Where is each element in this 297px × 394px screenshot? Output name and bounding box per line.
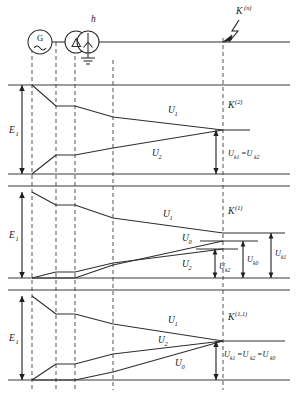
transformer-symbol: h [65, 14, 99, 64]
voltage-profile-diagram: G h K [0, 0, 297, 394]
measure-sub3-uk0-panel4: k0 [270, 355, 275, 361]
curve-sub-u2-panel4: 2 [165, 340, 169, 347]
curve-u1-panel2 [32, 85, 223, 130]
emf-arrowhead-down-panel4 [19, 374, 25, 380]
panel-two-phase-fault: E 1 U 1 U 2 K (2) U k1 =U k2 [8, 85, 290, 174]
fault-arrowhead [223, 35, 232, 42]
curve-sub-u2-panel3: 2 [189, 264, 193, 271]
curve-sub-u0-panel4: 0 [182, 363, 186, 370]
curve-u2-panel3 [32, 249, 223, 278]
fault-sup-panel3: (1) [235, 204, 242, 212]
measure-sub-uk0-panel3: k0 [253, 260, 258, 266]
curve-sub-u0-panel3: 0 [189, 238, 193, 245]
emf-measure-panel2: E 1 [8, 85, 25, 174]
fault-label-base: K [235, 6, 243, 16]
fault-label-panel3: K [227, 206, 235, 216]
measure-arrowhead-down-uk2 [213, 273, 218, 279]
emf-sub-panel2: 1 [16, 130, 19, 137]
curve-u0-panel4 [32, 341, 223, 380]
panel-double-ground-fault: E 1 U 1 U 2 U 0 K (1,1) U k1 =U k2 =U k0 [8, 290, 290, 380]
measure-uk2-panel3: U k2 [213, 249, 231, 278]
fault-marker-top: K (n) [223, 4, 251, 42]
measure-eq2-panel4: =U [257, 350, 270, 359]
panel-single-phase-fault: E 1 U 1 U 0 U 2 K (1) U k2 [8, 186, 290, 278]
emf-label-panel2: E [8, 125, 15, 135]
fault-sup-panel2: (2) [235, 98, 242, 106]
curve-sub-u2-panel2: 2 [159, 153, 163, 160]
measure-sub-uk2-panel3: k2 [225, 267, 230, 273]
measure-arrowhead-up-uk1 [269, 233, 274, 239]
emf-arrowhead-up-panel3 [19, 192, 25, 198]
fault-label-panel2: K [227, 100, 235, 110]
curve-u2-panel4 [32, 341, 223, 380]
emf-measure-panel3: E 1 [8, 192, 25, 278]
measure-sub-uk1-panel4: k1 [230, 355, 235, 361]
measure-uk-panel2: U k1 =U k2 [213, 130, 259, 174]
earth-ground-icon [81, 58, 95, 64]
emf-arrowhead-up [19, 85, 25, 91]
curve-u1-panel3 [32, 192, 223, 233]
measure-arrowhead-down-uk0 [241, 273, 246, 279]
curve-sub-u1-panel4: 1 [175, 320, 178, 327]
measure-uk1-panel3: U k1 [269, 233, 287, 278]
emf-sub-panel4: 1 [16, 338, 19, 345]
curve-sub-u1-panel2: 1 [175, 110, 178, 117]
emf-measure-panel4: E 1 [8, 296, 25, 380]
fault-label-panel4: K [227, 312, 235, 322]
measure-arrowhead-up-uk0 [241, 241, 246, 247]
curve-sub-u1-panel3: 1 [170, 214, 173, 221]
single-line-circuit: G h K [28, 4, 290, 64]
measure-eq-panel2: =U [241, 149, 254, 158]
generator-symbol: G [28, 30, 52, 54]
measure-arrowhead-down-uk1 [269, 273, 274, 279]
emf-arrowhead-down [19, 168, 25, 174]
vertical-reference-lines [32, 38, 223, 390]
emf-label-panel4: E [8, 333, 15, 343]
emf-arrowhead-up-panel4 [19, 296, 25, 302]
measure-arrowhead-down-panel4 [213, 374, 218, 380]
figure-root: G h K [0, 0, 297, 394]
generator-label: G [37, 33, 43, 43]
emf-label-panel3: E [8, 230, 15, 240]
transformer-tap-label: h [91, 14, 96, 24]
fault-sup-panel4: (1,1) [235, 310, 247, 318]
measure-eq-panel4: =U [237, 350, 250, 359]
measure-sub2-uk2-panel2: k2 [254, 154, 259, 160]
curve-u2-panel2 [32, 130, 223, 174]
measure-arrowhead-down-panel2 [213, 168, 218, 174]
measure-uk0-panel3: U k0 [241, 241, 259, 278]
emf-sub-panel3: 1 [16, 235, 19, 242]
curve-u1-panel4 [32, 296, 223, 341]
measure-sub-uk1-panel2: k1 [234, 154, 239, 160]
emf-arrowhead-down-panel3 [19, 272, 25, 278]
measure-sub-uk1-panel3: k1 [281, 254, 286, 260]
fault-label-superscript: (n) [244, 4, 251, 12]
measure-sub2-uk2-panel4: k2 [250, 355, 255, 361]
